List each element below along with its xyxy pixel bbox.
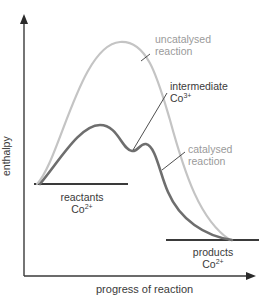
intermediate-species: Co3+	[170, 92, 228, 104]
intermediate-label-line1: intermediate	[170, 80, 228, 92]
x-axis-arrowhead-icon	[246, 272, 256, 280]
uncatalysed-label-line2: reaction	[155, 45, 211, 57]
catalysed-label: catalysed reaction	[188, 143, 232, 167]
x-axis-label: progress of reaction	[96, 283, 193, 295]
products-species-symbol: Co	[202, 258, 215, 270]
intermediate-leader-line	[133, 93, 167, 150]
products-label-line1: products	[186, 246, 240, 258]
reactants-species-symbol: Co	[71, 203, 84, 215]
catalysed-label-line1: catalysed	[188, 143, 232, 155]
y-axis-arrowhead-icon	[20, 14, 28, 24]
uncatalysed-label: uncatalysed reaction	[155, 33, 211, 57]
products-species: Co2+	[186, 258, 240, 270]
reactants-label-line1: reactants	[52, 191, 112, 203]
reactants-label: reactants Co2+	[52, 191, 112, 215]
products-label: products Co2+	[186, 246, 240, 270]
intermediate-species-symbol: Co	[170, 92, 183, 104]
y-axis-label: enthalpy	[0, 94, 12, 134]
uncatalysed-label-line1: uncatalysed	[155, 33, 211, 45]
intermediate-charge: 3+	[183, 92, 191, 99]
y-axis-label-text: enthalpy	[0, 136, 12, 176]
reactants-species: Co2+	[52, 203, 112, 215]
catalysed-label-line2: reaction	[188, 155, 232, 167]
reactants-charge: 2+	[85, 203, 93, 210]
intermediate-label: intermediate Co3+	[170, 80, 228, 104]
products-charge: 2+	[216, 258, 224, 265]
